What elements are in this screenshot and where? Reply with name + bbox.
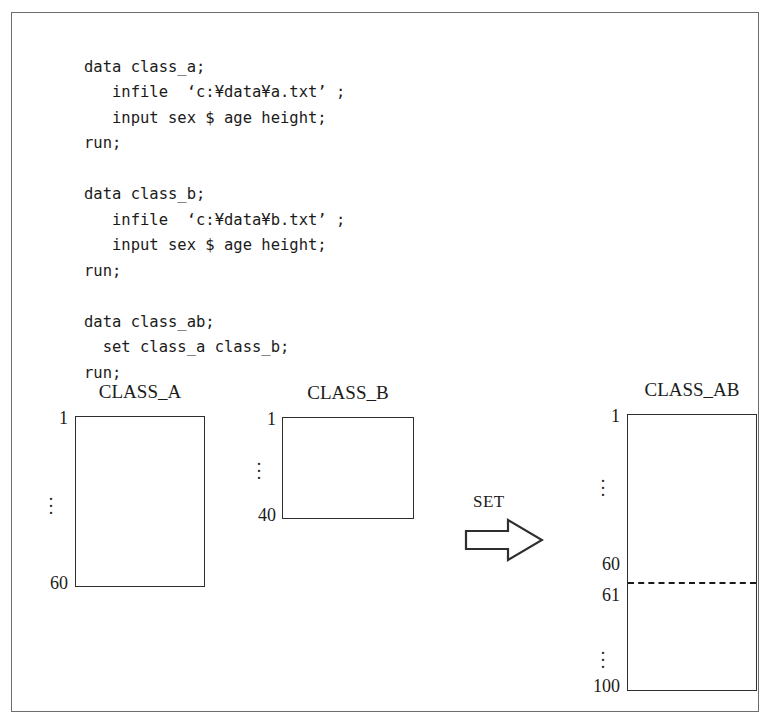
- set-operation-label: SET: [473, 492, 505, 512]
- code-line: data class_a;: [84, 55, 345, 81]
- class-a-title: CLASS_A: [75, 381, 205, 403]
- class-ab-upper-ellipsis: . . .: [586, 473, 620, 494]
- code-line: run;: [84, 131, 345, 157]
- ellipsis-dot: .: [586, 487, 620, 494]
- class-a-last-row-label: 60: [28, 573, 68, 594]
- class-b-ellipsis: . . .: [242, 456, 276, 477]
- figure-frame: data class_a; infile ‘c:¥data¥a.txt’ ; i…: [11, 12, 759, 712]
- code-line: data class_b;: [84, 182, 345, 208]
- ellipsis-dot: .: [242, 470, 276, 477]
- class-a-ellipsis: . . .: [34, 491, 68, 512]
- class-ab-split-divider: [628, 582, 756, 584]
- class-ab-first-row-label: 1: [580, 406, 620, 427]
- class-a-dataset-box: [75, 416, 205, 587]
- class-ab-lower-ellipsis: . . .: [586, 645, 620, 666]
- code-line: set class_a class_b;: [84, 335, 345, 361]
- class-b-title: CLASS_B: [282, 382, 414, 404]
- class-ab-dataset-box: [627, 414, 757, 691]
- class-a-first-row-label: 1: [28, 408, 68, 429]
- ellipsis-dot: .: [34, 505, 68, 512]
- code-blank-line: [84, 284, 345, 310]
- code-line: input sex $ age height;: [84, 106, 345, 132]
- right-block-arrow-icon: [464, 517, 544, 563]
- class-b-last-row-label: 40: [236, 505, 276, 526]
- ellipsis-dot: .: [586, 659, 620, 666]
- sas-code-listing: data class_a; infile ‘c:¥data¥a.txt’ ; i…: [84, 55, 345, 387]
- class-ab-last-row-label: 100: [568, 676, 620, 697]
- code-line: infile ‘c:¥data¥a.txt’ ;: [84, 80, 345, 106]
- code-line: input sex $ age height;: [84, 233, 345, 259]
- figure-page: data class_a; infile ‘c:¥data¥a.txt’ ; i…: [0, 0, 772, 723]
- class-ab-title: CLASS_AB: [624, 379, 760, 401]
- code-line: data class_ab;: [84, 310, 345, 336]
- code-blank-line: [84, 157, 345, 183]
- class-b-dataset-box: [282, 417, 414, 519]
- code-line: infile ‘c:¥data¥b.txt’ ;: [84, 208, 345, 234]
- class-ab-split-above-label: 60: [580, 554, 620, 575]
- class-b-first-row-label: 1: [236, 409, 276, 430]
- class-ab-split-below-label: 61: [580, 585, 620, 606]
- code-line: run;: [84, 259, 345, 285]
